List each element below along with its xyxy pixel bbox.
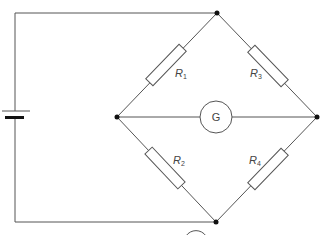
r4-main: R: [249, 154, 257, 166]
r3-main: R: [250, 67, 258, 79]
node-bottom: [214, 220, 219, 225]
r2-sub: 2: [181, 160, 185, 167]
node-top: [215, 11, 220, 16]
circuit-diagram: [0, 0, 324, 235]
resistor-r4-label: R4: [249, 155, 261, 167]
r4-sub: 4: [257, 160, 261, 167]
wire-top-left: [15, 13, 217, 111]
resistor-r3-label: R3: [250, 68, 262, 80]
wire-bottom-left: [15, 117, 216, 222]
partial-circle-icon: [186, 231, 206, 235]
r1-sub: 1: [183, 73, 187, 80]
node-left: [115, 115, 120, 120]
resistor-r2-label: R2: [173, 155, 185, 167]
resistor-r3-icon: [248, 45, 288, 87]
node-right: [315, 115, 320, 120]
r1-main: R: [175, 67, 183, 79]
r2-main: R: [173, 154, 181, 166]
resistor-r1-label: R1: [175, 68, 187, 80]
r3-sub: 3: [258, 73, 262, 80]
galvanometer-label: G: [206, 112, 226, 123]
battery-icon: [2, 111, 30, 119]
